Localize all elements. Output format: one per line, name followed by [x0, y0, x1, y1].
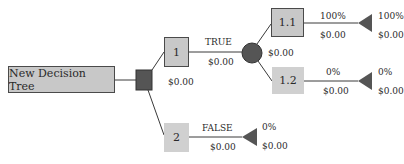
outcome-1-1-label: 1.1 [279, 16, 297, 29]
decision-node-icon[interactable] [136, 70, 152, 90]
outcome-1-1-probability: 100% [320, 12, 346, 21]
root-label: New Decision Tree [9, 67, 114, 93]
terminal-1-1-probability: 100% [378, 12, 404, 21]
branch-1-label: 1 [173, 46, 180, 59]
chance-node-value: $0.00 [268, 49, 294, 58]
terminal-2-probability: 0% [262, 123, 276, 132]
terminal-1-1-value: $0.00 [378, 31, 404, 40]
branch-1-node-value: $0.00 [168, 78, 194, 87]
terminal-node-icon-1-2[interactable] [358, 72, 372, 90]
outcome-node-1-1[interactable]: 1.1 [271, 8, 304, 37]
outcome-1-2-value: $0.00 [323, 87, 349, 96]
edge-label-false: FALSE [202, 124, 233, 133]
terminal-1-2-value: $0.00 [378, 87, 404, 96]
terminal-node-icon-2[interactable] [242, 128, 257, 146]
chance-node-icon[interactable] [242, 43, 262, 63]
outcome-node-1-2[interactable]: 1.2 [272, 67, 304, 94]
branch-node-2[interactable]: 2 [164, 123, 189, 152]
terminal-2-value: $0.00 [262, 142, 288, 151]
terminal-1-2-probability: 0% [378, 68, 392, 77]
branch-node-1[interactable]: 1 [164, 37, 189, 67]
edge-value-true: $0.00 [208, 58, 234, 67]
edge-label-true: TRUE [205, 38, 232, 47]
branch-2-label: 2 [173, 131, 180, 144]
edge-value-false: $0.00 [210, 143, 236, 152]
outcome-1-2-label: 1.2 [279, 74, 297, 87]
terminal-node-icon-1-1[interactable] [358, 14, 372, 32]
root-node[interactable]: New Decision Tree [8, 66, 115, 93]
outcome-1-1-value: $0.00 [320, 31, 346, 40]
outcome-1-2-probability: 0% [326, 68, 340, 77]
